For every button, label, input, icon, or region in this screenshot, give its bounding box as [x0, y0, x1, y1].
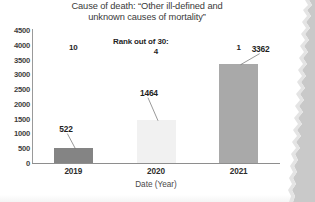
scanned-page: Cause of death: “Other ill-defined and u… [0, 0, 315, 202]
y-axis-tick: 2000 [0, 99, 30, 108]
x-axis-tick: 2020 [131, 167, 181, 176]
rank-header-label: Rank out of 30: [113, 37, 169, 46]
x-axis-line [32, 163, 280, 164]
chart-title-line-2: unknown causes of mortality” [88, 12, 206, 22]
scan-background-shape [292, 0, 315, 202]
bar [219, 64, 258, 163]
x-axis-tick: 2019 [48, 167, 98, 176]
rank-value-label: 1 [227, 43, 251, 52]
chart-title: Cause of death: “Other ill-defined and u… [18, 1, 276, 23]
rank-value-label: 4 [144, 47, 168, 56]
bar [137, 120, 176, 163]
bar-value-label: 3362 [252, 44, 270, 54]
bar-value-label: 1464 [140, 88, 158, 98]
bar-value-label: 522 [59, 124, 72, 134]
y-axis-tick: 0 [0, 159, 30, 168]
x-axis-title: Date (Year) [32, 180, 280, 189]
y-axis-tick: 4500 [0, 26, 30, 35]
y-axis-tick: 3000 [0, 70, 30, 79]
y-axis-tick: 1500 [0, 114, 30, 123]
page-bottom-smudge [0, 195, 290, 202]
bar [54, 148, 93, 163]
y-axis-tick: 3500 [0, 55, 30, 64]
chart-title-line-1: Cause of death: “Other ill-defined and [71, 1, 222, 11]
y-axis-tick: 4000 [0, 40, 30, 49]
scan-edge-shadow [288, 0, 312, 202]
y-axis-ticks: 050010001500200025003000350040004500 [0, 0, 30, 202]
y-axis-tick: 500 [0, 144, 30, 153]
bar-chart: Cause of death: “Other ill-defined and u… [0, 0, 290, 202]
x-axis-tick: 2021 [214, 167, 264, 176]
y-axis-tick: 2500 [0, 85, 30, 94]
rank-value-label: 10 [61, 43, 85, 52]
y-axis-tick: 1000 [0, 129, 30, 138]
